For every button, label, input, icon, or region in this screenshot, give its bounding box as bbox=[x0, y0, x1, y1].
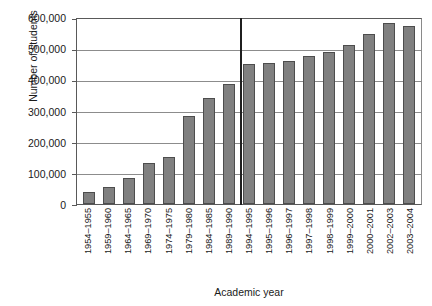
y-tick-label: 300,000 bbox=[28, 106, 66, 118]
x-tick-label: 1964–1965 bbox=[123, 208, 133, 254]
x-tick-label: 1969–1970 bbox=[143, 208, 153, 254]
x-tick-label: 1979–1980 bbox=[184, 208, 194, 254]
x-tick-cell: 1954–1955 bbox=[78, 205, 98, 283]
bar-cell bbox=[379, 19, 399, 204]
bar-cell bbox=[399, 19, 419, 204]
bar-cell bbox=[259, 19, 279, 204]
bar bbox=[363, 34, 375, 204]
bar-cell bbox=[159, 19, 179, 204]
x-tick-label: 1974–1975 bbox=[164, 208, 174, 254]
y-tick-label: 0 bbox=[60, 199, 66, 211]
x-tick-label: 1989–1990 bbox=[224, 208, 234, 254]
bar bbox=[123, 178, 135, 204]
bar bbox=[243, 64, 255, 204]
bar-cell bbox=[319, 19, 339, 204]
x-tick-cell: 1995–1996 bbox=[259, 205, 279, 283]
bar bbox=[323, 52, 335, 204]
bar bbox=[223, 84, 235, 204]
bar-series bbox=[77, 19, 421, 204]
x-tick-cell: 1979–1980 bbox=[179, 205, 199, 283]
x-tick-label: 1999–2000 bbox=[345, 208, 355, 254]
bar-cell bbox=[79, 19, 99, 204]
x-tick-cell: 2003–2004 bbox=[400, 205, 420, 283]
x-axis-tick-labels: 1954–19551959–19601964–19651969–19701974… bbox=[76, 205, 422, 283]
y-tick-label: 400,000 bbox=[28, 74, 66, 86]
bar bbox=[383, 23, 395, 204]
x-tick-label: 1994–1995 bbox=[244, 208, 254, 254]
x-tick-label: 2000–2001 bbox=[365, 208, 375, 254]
x-tick-label: 1998–1999 bbox=[325, 208, 335, 254]
bar-cell bbox=[339, 19, 359, 204]
x-tick-label: 1997–1998 bbox=[304, 208, 314, 254]
x-tick-cell: 1974–1975 bbox=[159, 205, 179, 283]
bar-cell bbox=[199, 19, 219, 204]
bar bbox=[263, 63, 275, 204]
x-tick-cell: 2002–2003 bbox=[380, 205, 400, 283]
plot-area bbox=[76, 18, 422, 205]
x-tick-cell: 1989–1990 bbox=[219, 205, 239, 283]
period-divider-line bbox=[240, 18, 242, 205]
bar-cell bbox=[179, 19, 199, 204]
bar-cell bbox=[299, 19, 319, 204]
x-tick-cell: 1996–1997 bbox=[279, 205, 299, 283]
x-tick-cell: 1999–2000 bbox=[340, 205, 360, 283]
x-axis-title: Academic year bbox=[76, 286, 422, 298]
bar-cell bbox=[239, 19, 259, 204]
bar bbox=[343, 45, 355, 204]
x-tick-cell: 1997–1998 bbox=[299, 205, 319, 283]
bar bbox=[163, 157, 175, 204]
bar bbox=[103, 187, 115, 204]
bar-cell bbox=[359, 19, 379, 204]
x-tick-label: 1954–1955 bbox=[83, 208, 93, 254]
bar-cell bbox=[139, 19, 159, 204]
x-tick-label: 2002–2003 bbox=[385, 208, 395, 254]
y-tick-label: 200,000 bbox=[28, 137, 66, 149]
bar bbox=[183, 116, 195, 204]
x-tick-cell: 1969–1970 bbox=[138, 205, 158, 283]
bar-cell bbox=[119, 19, 139, 204]
y-tick-label: 100,000 bbox=[28, 168, 66, 180]
y-tick-label: 500,000 bbox=[28, 43, 66, 55]
y-tick-label: 600,000 bbox=[28, 12, 66, 24]
x-tick-cell: 1959–1960 bbox=[98, 205, 118, 283]
x-tick-label: 1984–1985 bbox=[204, 208, 214, 254]
x-tick-label: 2003–2004 bbox=[405, 208, 415, 254]
bar bbox=[403, 26, 415, 204]
x-tick-cell: 1984–1985 bbox=[199, 205, 219, 283]
bar-chart: Number of students 600,000 500,000 400,0… bbox=[0, 0, 432, 306]
x-tick-cell: 2000–2001 bbox=[360, 205, 380, 283]
bar bbox=[303, 56, 315, 204]
bar-cell bbox=[219, 19, 239, 204]
x-tick-label: 1995–1996 bbox=[264, 208, 274, 254]
x-tick-cell: 1998–1999 bbox=[320, 205, 340, 283]
bar bbox=[283, 61, 295, 204]
x-tick-label: 1996–1997 bbox=[284, 208, 294, 254]
x-tick-label: 1959–1960 bbox=[103, 208, 113, 254]
x-tick-cell: 1994–1995 bbox=[239, 205, 259, 283]
bar-cell bbox=[99, 19, 119, 204]
bar bbox=[143, 163, 155, 204]
y-axis-tick-labels: 600,000 500,000 400,000 300,000 200,000 … bbox=[0, 0, 72, 306]
bar bbox=[203, 98, 215, 204]
bar-cell bbox=[279, 19, 299, 204]
x-tick-cell: 1964–1965 bbox=[118, 205, 138, 283]
bar bbox=[83, 192, 95, 204]
